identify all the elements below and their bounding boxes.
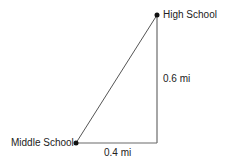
hypotenuse-line: [76, 15, 157, 143]
middle-school-point: [74, 141, 79, 146]
vertical-distance-label: 0.6 mi: [163, 73, 190, 84]
high-school-label: High School: [163, 9, 217, 20]
high-school-point: [155, 13, 160, 18]
middle-school-label: Middle School: [11, 137, 74, 148]
horizontal-distance-label: 0.4 mi: [104, 147, 131, 158]
